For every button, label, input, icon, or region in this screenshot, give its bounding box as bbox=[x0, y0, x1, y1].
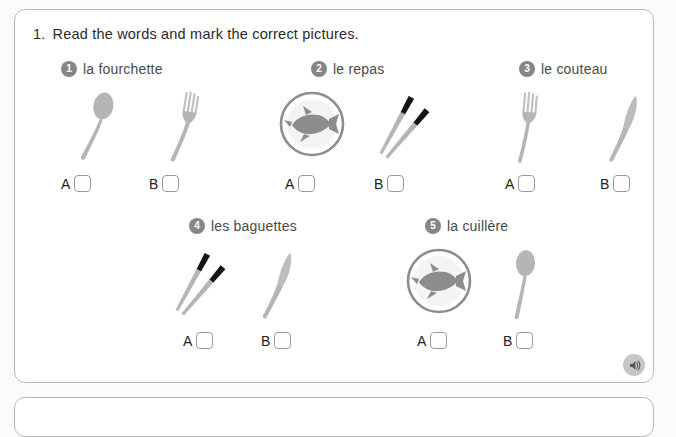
spoon-picture[interactable] bbox=[65, 89, 127, 167]
option-letter: B bbox=[261, 333, 270, 349]
option-letter: A bbox=[183, 333, 192, 349]
item-5-option-b bbox=[491, 246, 553, 324]
speaker-icon bbox=[627, 358, 642, 373]
exercise-item-1: 1 la fourchette A bbox=[61, 61, 241, 196]
checkbox-item1-a[interactable] bbox=[74, 175, 91, 192]
fork-picture[interactable] bbox=[152, 89, 214, 167]
item-5-heading: 5 la cuillère bbox=[425, 218, 508, 234]
checkbox-item5-a[interactable] bbox=[430, 332, 447, 349]
item-number-badge: 5 bbox=[425, 218, 441, 234]
item-number-badge: 1 bbox=[61, 61, 77, 77]
knife-picture[interactable] bbox=[591, 89, 653, 167]
item-2-heading: 2 le repas bbox=[311, 61, 384, 77]
item-label: la cuillère bbox=[447, 218, 508, 234]
checkbox-item2-b[interactable] bbox=[387, 175, 404, 192]
item-4-heading: 4 les baguettes bbox=[189, 218, 297, 234]
checkbox-item2-a[interactable] bbox=[298, 175, 315, 192]
option-letter: A bbox=[61, 176, 70, 192]
item-1-option-a bbox=[65, 89, 127, 167]
audio-play-button[interactable] bbox=[623, 354, 645, 376]
exercise-item-4: 4 les baguettes bbox=[165, 218, 355, 353]
item-5-option-a bbox=[403, 246, 465, 324]
item-1-heading: 1 la fourchette bbox=[61, 61, 163, 77]
option-letter: A bbox=[417, 333, 426, 349]
item-2-answer-b[interactable]: B bbox=[374, 175, 404, 192]
exercise-item-3: 3 le couteau bbox=[479, 61, 659, 196]
item-label: le repas bbox=[333, 61, 384, 77]
checkbox-item4-a[interactable] bbox=[196, 332, 213, 349]
page-title: 1.Read the words and mark the correct pi… bbox=[33, 26, 359, 42]
plate-with-fish-picture[interactable] bbox=[276, 89, 338, 167]
option-letter: B bbox=[503, 333, 512, 349]
checkbox-item3-a[interactable] bbox=[518, 175, 535, 192]
item-2-option-a bbox=[276, 89, 338, 167]
item-label: les baguettes bbox=[211, 218, 297, 234]
plate-with-fish-picture[interactable] bbox=[403, 246, 465, 324]
checkbox-item4-b[interactable] bbox=[274, 332, 291, 349]
chopsticks-picture[interactable] bbox=[165, 246, 227, 324]
exercise-panel: 1.Read the words and mark the correct pi… bbox=[14, 9, 654, 383]
item-3-option-a bbox=[497, 89, 559, 167]
exercise-instruction: Read the words and mark the correct pict… bbox=[53, 26, 359, 42]
item-number-badge: 2 bbox=[311, 61, 327, 77]
fork-picture[interactable] bbox=[497, 89, 559, 167]
checkbox-item1-b[interactable] bbox=[162, 175, 179, 192]
item-4-answer-a[interactable]: A bbox=[183, 332, 213, 349]
knife-picture[interactable] bbox=[245, 246, 307, 324]
option-letter: A bbox=[505, 176, 514, 192]
chopsticks-picture[interactable] bbox=[369, 89, 431, 167]
item-1-answer-a[interactable]: A bbox=[61, 175, 91, 192]
option-letter: B bbox=[600, 176, 609, 192]
next-exercise-panel bbox=[14, 397, 654, 437]
item-label: la fourchette bbox=[83, 61, 163, 77]
checkbox-item5-b[interactable] bbox=[516, 332, 533, 349]
item-3-option-b bbox=[591, 89, 653, 167]
item-1-option-b bbox=[152, 89, 214, 167]
exercise-number: 1. bbox=[33, 26, 46, 42]
item-4-answer-b[interactable]: B bbox=[261, 332, 291, 349]
item-2-option-b bbox=[369, 89, 431, 167]
item-4-option-a bbox=[165, 246, 227, 324]
item-2-answer-a[interactable]: A bbox=[285, 175, 315, 192]
exercise-item-5: 5 la cuillère bbox=[403, 218, 593, 353]
option-letter: B bbox=[149, 176, 158, 192]
exercise-item-2: 2 le repas bbox=[273, 61, 453, 196]
item-1-answer-b[interactable]: B bbox=[149, 175, 179, 192]
item-label: le couteau bbox=[541, 61, 608, 77]
item-number-badge: 4 bbox=[189, 218, 205, 234]
item-5-answer-a[interactable]: A bbox=[417, 332, 447, 349]
spoon-picture[interactable] bbox=[491, 246, 553, 324]
item-3-answer-b[interactable]: B bbox=[600, 175, 630, 192]
checkbox-item3-b[interactable] bbox=[613, 175, 630, 192]
item-3-answer-a[interactable]: A bbox=[505, 175, 535, 192]
item-5-answer-b[interactable]: B bbox=[503, 332, 533, 349]
option-letter: A bbox=[285, 176, 294, 192]
option-letter: B bbox=[374, 176, 383, 192]
item-number-badge: 3 bbox=[519, 61, 535, 77]
item-3-heading: 3 le couteau bbox=[519, 61, 608, 77]
item-4-option-b bbox=[245, 246, 307, 324]
